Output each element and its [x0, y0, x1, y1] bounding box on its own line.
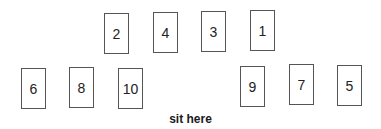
- seat-2: 2: [104, 13, 129, 54]
- seat-label: 5: [346, 78, 354, 94]
- seat-8: 8: [69, 67, 94, 108]
- seat-10: 10: [118, 68, 143, 109]
- seat-label: 2: [113, 26, 121, 42]
- seat-label: 7: [298, 77, 306, 93]
- seat-3: 3: [201, 11, 226, 52]
- seat-7: 7: [289, 64, 314, 105]
- seat-label: 4: [162, 25, 170, 41]
- seat-label: 3: [210, 24, 218, 40]
- seat-4: 4: [153, 12, 178, 53]
- seat-label: 8: [78, 80, 86, 96]
- seat-1: 1: [250, 10, 275, 51]
- seat-9: 9: [240, 66, 265, 107]
- seat-label: 9: [249, 79, 257, 95]
- seat-5: 5: [337, 65, 362, 106]
- seat-label: 10: [123, 81, 139, 97]
- seat-label: 1: [259, 23, 267, 39]
- sit-here-caption: sit here: [0, 112, 381, 126]
- seat-label: 6: [30, 81, 38, 97]
- seat-6: 6: [21, 68, 46, 109]
